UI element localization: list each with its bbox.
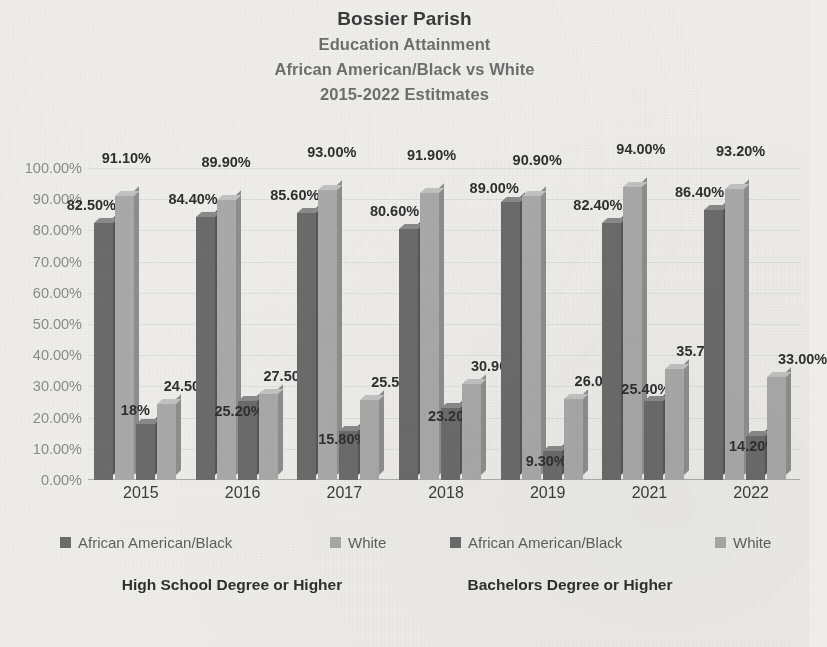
bar-value-label: 82.40% — [573, 197, 622, 213]
bar-value-label: 82.50% — [67, 197, 116, 213]
bar-value-label: 93.20% — [716, 143, 765, 159]
legend-label: African American/Black — [468, 534, 622, 551]
legend-label: White — [348, 534, 386, 551]
bar-value-label: 86.40% — [675, 184, 724, 200]
bar-group: 82.40%94.00%25.40%35.70% — [602, 168, 694, 480]
bar-body — [623, 187, 642, 480]
page-title: Bossier Parish — [0, 6, 809, 32]
bar-value-label: 25.20% — [214, 403, 263, 419]
bar-group: 84.40%89.90%25.20%27.50% — [196, 168, 288, 480]
y-axis-tick: 80.00% — [0, 222, 82, 238]
bar-front-face — [522, 196, 541, 480]
legend-item[interactable]: African American/Black — [60, 534, 232, 551]
bar-body — [157, 404, 176, 480]
x-axis-tick: 2021 — [632, 484, 668, 502]
y-axis: 100.00%90.00%80.00%70.00%60.00%50.00%40.… — [0, 168, 82, 480]
bar[interactable] — [564, 399, 583, 480]
bar-body — [501, 202, 520, 480]
bar[interactable] — [501, 202, 520, 480]
legend-label: White — [733, 534, 771, 551]
bar-front-face — [704, 210, 723, 480]
bar[interactable] — [767, 377, 786, 480]
bar[interactable] — [360, 400, 379, 480]
bar-body — [115, 196, 134, 480]
subtitle-line-3: 2015-2022 Estitmates — [0, 82, 809, 107]
bar[interactable] — [522, 196, 541, 480]
bar-front-face — [136, 424, 155, 480]
bar[interactable] — [217, 200, 236, 480]
bar-group: 80.60%91.90%23.20%30.90% — [399, 168, 491, 480]
bar[interactable] — [644, 401, 663, 480]
bar-body — [259, 394, 278, 480]
bar[interactable] — [115, 196, 134, 480]
bar-front-face — [725, 189, 744, 480]
bar-side-face — [744, 179, 749, 475]
bar-front-face — [217, 200, 236, 480]
bar[interactable] — [399, 229, 418, 480]
bar-front-face — [115, 196, 134, 480]
y-axis-tick: 30.00% — [0, 378, 82, 394]
bar-group: 82.50%91.10%18%24.50% — [94, 168, 186, 480]
bar[interactable] — [297, 213, 316, 480]
bar-value-label: 33.00% — [778, 351, 827, 367]
bar-front-face — [501, 202, 520, 480]
bar[interactable] — [259, 394, 278, 480]
legend-item[interactable]: White — [330, 534, 386, 551]
bar-body — [462, 384, 481, 480]
bar-front-face — [644, 401, 663, 480]
bar-front-face — [259, 394, 278, 480]
group-caption: High School Degree or Higher — [122, 576, 342, 594]
x-axis: 2015201620172018201920212022 — [88, 484, 800, 508]
bar[interactable] — [157, 404, 176, 480]
bar-body — [564, 399, 583, 480]
y-axis-tick: 50.00% — [0, 316, 82, 332]
bar[interactable] — [94, 223, 113, 480]
bar-front-face — [196, 217, 215, 480]
bar-value-label: 80.60% — [370, 203, 419, 219]
bar[interactable] — [196, 217, 215, 480]
bar[interactable] — [725, 189, 744, 480]
bar-value-label: 93.00% — [307, 144, 356, 160]
bar[interactable] — [136, 424, 155, 480]
bar-side-face — [541, 187, 546, 475]
bar-side-face — [786, 367, 791, 475]
bar-value-label: 91.90% — [407, 147, 456, 163]
bar[interactable] — [665, 369, 684, 480]
bar-value-label: 94.00% — [616, 141, 665, 157]
y-axis-tick: 70.00% — [0, 254, 82, 270]
bar-front-face — [462, 384, 481, 480]
bar-front-face — [623, 187, 642, 480]
bar-value-label: 18% — [121, 402, 150, 418]
bar-body — [399, 229, 418, 480]
bar-body — [360, 400, 379, 480]
bar-side-face — [583, 389, 588, 475]
plot-area: 82.50%91.10%18%24.50%84.40%89.90%25.20%2… — [88, 168, 800, 480]
bar-value-label: 91.10% — [102, 150, 151, 166]
subtitle-line-1: Education Attainment — [0, 32, 809, 57]
legend-item[interactable]: African American/Black — [450, 534, 622, 551]
y-axis-tick: 10.00% — [0, 441, 82, 457]
bar-side-face — [481, 374, 486, 475]
y-axis-tick: 100.00% — [0, 160, 82, 176]
bar-body — [94, 223, 113, 480]
bar[interactable] — [462, 384, 481, 480]
bar-front-face — [399, 229, 418, 480]
bar-front-face — [767, 377, 786, 480]
x-axis-tick: 2019 — [530, 484, 566, 502]
legend-item[interactable]: White — [715, 534, 771, 551]
legend-swatch-icon — [60, 537, 71, 548]
x-axis-tick: 2015 — [123, 484, 159, 502]
bar[interactable] — [623, 187, 642, 480]
bar[interactable] — [602, 223, 621, 480]
bar-front-face — [665, 369, 684, 480]
bar-front-face — [157, 404, 176, 480]
bar-front-face — [420, 193, 439, 480]
bar-body — [602, 223, 621, 480]
bar-body — [196, 217, 215, 480]
x-axis-tick: 2022 — [733, 484, 769, 502]
bar-value-label: 89.00% — [470, 180, 519, 196]
bar[interactable] — [704, 210, 723, 480]
legend-swatch-icon — [450, 537, 461, 548]
bar[interactable] — [420, 193, 439, 480]
